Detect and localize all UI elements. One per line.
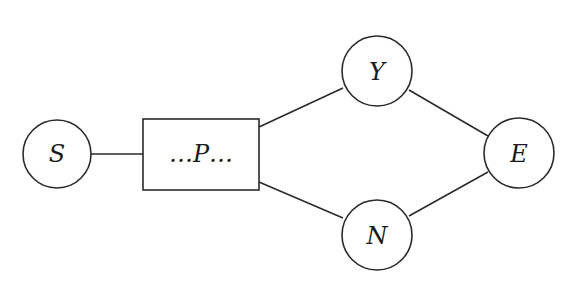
- node-y: Y: [342, 36, 412, 106]
- edge-p-to-y: [259, 88, 343, 127]
- edge-y-to-e: [409, 90, 488, 136]
- node-y-label: Y: [369, 58, 387, 86]
- edge-p-to-n: [259, 182, 343, 218]
- node-e-label: E: [509, 140, 528, 168]
- node-n-label: N: [366, 222, 389, 250]
- node-e: E: [484, 118, 554, 188]
- node-s: S: [23, 120, 91, 188]
- node-p-label: …P…: [169, 140, 233, 168]
- edge-n-to-e: [409, 172, 488, 216]
- node-p: …P…: [143, 119, 259, 190]
- node-s-label: S: [49, 140, 65, 168]
- flow-diagram: S …P… Y N E: [0, 0, 571, 282]
- node-n: N: [342, 200, 412, 270]
